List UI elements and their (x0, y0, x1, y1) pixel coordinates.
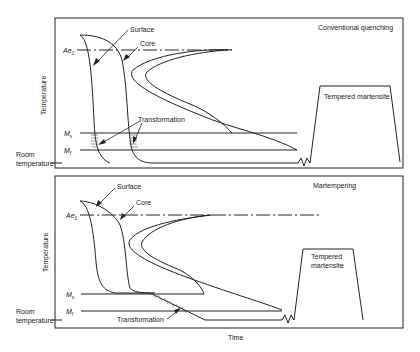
core-label: Core (140, 40, 155, 47)
ttt-finish-curve (129, 215, 282, 310)
mf-label: Mf (64, 147, 72, 156)
time-break (150, 158, 310, 166)
core-cooling-curve (80, 35, 150, 163)
panel-martempering: Martempering Temperature Room temperatur… (16, 176, 403, 328)
core-arrow-icon (123, 54, 130, 61)
surface-cooling-curve (80, 201, 282, 320)
transformation-pointer-core (135, 123, 142, 140)
surface-pointer (99, 188, 115, 204)
room-temp-label-2: temperature (16, 160, 54, 168)
core-arrow-icon (120, 213, 126, 220)
ms-label: Ms (64, 130, 73, 139)
surface-label: Surface (130, 26, 154, 33)
mf-label: Mf (66, 308, 74, 317)
x-axis-label: Time (228, 334, 243, 341)
transformation-label: Transformation (138, 116, 185, 123)
tempered-martensite-label: Tempered martensite (324, 93, 390, 101)
panel-frame (55, 176, 403, 328)
panel-conventional-quenching: Conventional quenching Temperature Room … (16, 18, 403, 168)
core-label: Core (136, 199, 151, 206)
ae1-label: Ae1 (62, 47, 75, 56)
time-break (282, 315, 294, 323)
ttt-finish-curve (132, 50, 297, 150)
surface-arrow-icon (93, 58, 100, 66)
heat-treatment-diagram: Conventional quenching Temperature Room … (0, 0, 420, 352)
surface-pointer (97, 30, 128, 62)
room-temp-label-2: temperature (16, 317, 54, 325)
room-temp-label: Room (16, 308, 35, 315)
panel-title: Conventional quenching (318, 24, 393, 32)
tempered-label: Tempered (311, 253, 342, 261)
transformation-label: Transformation (117, 316, 164, 323)
room-temp-label: Room (16, 151, 35, 158)
ms-label: Ms (66, 291, 75, 300)
martensite-label: martensite (311, 262, 344, 269)
y-axis-label: Temperature (42, 233, 50, 272)
ae1-label: Ae1 (65, 212, 78, 221)
panel-title: Martempering (313, 182, 356, 190)
surface-label: Surface (117, 183, 141, 190)
y-axis-label: Temperature (40, 76, 48, 115)
transformation-arrow-icon (98, 139, 106, 145)
